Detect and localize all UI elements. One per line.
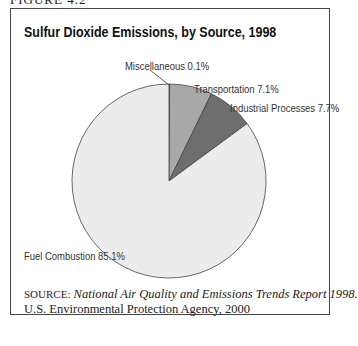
label-transportation: Transportation 7.1% [194, 83, 279, 95]
source-publisher: U.S. Environmental Protection Agency, 20… [24, 302, 250, 316]
misc-leader-line [150, 70, 169, 85]
label-miscellaneous: Miscellaneous 0.1% [125, 60, 209, 72]
source-prefix: SOURCE: [24, 288, 70, 300]
label-fuel-combustion: Fuel Combustion 85.1% [24, 250, 125, 262]
source-title: National Air Quality and Emissions Trend… [74, 287, 358, 301]
label-industrial-processes: Industrial Processes 7.7% [230, 102, 339, 114]
source-note: SOURCE: National Air Quality and Emissio… [24, 287, 358, 317]
